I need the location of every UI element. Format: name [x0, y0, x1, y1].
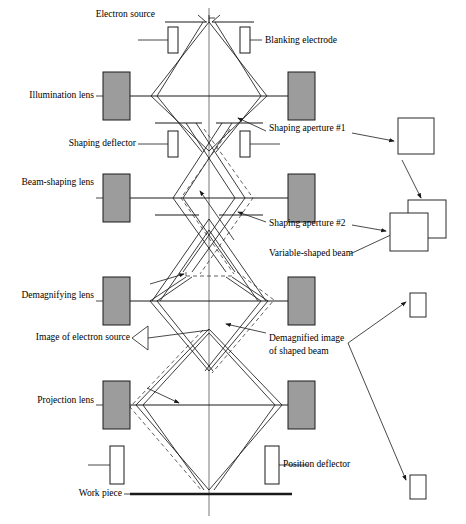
illumination-lens-right	[288, 72, 315, 120]
label-illumination-lens: Illumination lens	[29, 90, 94, 100]
shaping-aperture-1-square	[398, 118, 434, 154]
label-position-deflector: Position deflector	[283, 459, 351, 469]
arrow-square1-to-overlap	[402, 160, 421, 198]
shaping-deflector-plate-right	[240, 131, 250, 157]
ray-bundle-projection	[130, 329, 282, 491]
ray-upper-right-outer	[209, 22, 267, 151]
shaping-deflector-plate-left	[168, 131, 178, 157]
electron-column-diagram: Electron source Illumination lens Shapin…	[0, 0, 466, 524]
label-image-of-electron-source: Image of electron source	[36, 332, 130, 342]
arrow-demagnified-to-upper-rect	[348, 302, 406, 343]
projection-lens-right	[288, 381, 315, 429]
variable-shaped-beam-square-front	[390, 213, 428, 251]
label-variable-shaped-beam: Variable-shaped beam	[269, 248, 354, 258]
label-beam-shaping-lens: Beam-shaping lens	[21, 177, 94, 187]
illumination-lens-left	[103, 72, 130, 120]
image-of-electron-source-pointer	[148, 330, 209, 338]
arrow-shaping-aperture-2-to-square	[352, 225, 386, 231]
ray-upper-left-inner	[157, 22, 203, 152]
position-deflector-plate-right	[265, 446, 279, 484]
arrow-image-source-in-column	[150, 274, 184, 284]
position-deflector-plate-left	[110, 446, 124, 484]
ray-upper-left-outer	[151, 22, 209, 151]
demagnifying-lens-right	[288, 277, 315, 325]
label-projection-lens: Projection lens	[37, 395, 94, 405]
arrow-shaping-aperture-1-to-square	[352, 133, 394, 141]
label-electron-source: Electron source	[96, 9, 155, 19]
ray-bundle-demagnify	[150, 272, 274, 373]
demagnifying-lens-left	[103, 277, 130, 325]
label-work-piece: Work piece	[79, 488, 122, 498]
ray-proj-left	[136, 329, 209, 490]
arrow-demagnified-to-lower-rect	[348, 343, 406, 480]
ray-upper-right-inner	[215, 22, 261, 152]
callout-shapes-group	[390, 118, 446, 499]
blanking-electrode-plate-left	[168, 27, 178, 53]
arrow-to-shaping-aperture-2	[238, 212, 266, 222]
label-demagnifying-lens: Demagnifying lens	[21, 290, 94, 300]
arrow-to-shaping-aperture-1	[238, 118, 266, 131]
demagnified-image-rect-lower	[410, 475, 426, 499]
label-demagnified-image-line2: of shaped beam	[269, 346, 329, 356]
label-demagnified-image-line1: Demagnified image	[269, 333, 344, 343]
ray-proj-left-inner	[143, 333, 209, 490]
demagnified-image-rect-upper	[410, 293, 426, 317]
image-of-electron-source-leader	[132, 326, 148, 350]
ray-source-right	[212, 15, 220, 22]
arrow-to-demagnified-image	[226, 324, 266, 333]
label-shaping-aperture-1: Shaping aperture #1	[269, 123, 346, 133]
column-diagram-canvas: Electron source Illumination lens Shapin…	[0, 0, 466, 524]
ray-demag-shifted	[212, 272, 274, 373]
label-shaping-deflector: Shaping deflector	[69, 138, 137, 148]
ray-source-left	[198, 15, 206, 22]
blanking-electrode-plate-right	[240, 27, 250, 53]
beam-shaping-lens-left	[103, 174, 130, 222]
label-shaping-aperture-2: Shaping aperture #2	[269, 218, 346, 228]
label-blanking-electrode: Blanking electrode	[265, 35, 337, 45]
beam-shaping-lens-right	[288, 174, 315, 222]
projection-lens-left	[103, 381, 130, 429]
